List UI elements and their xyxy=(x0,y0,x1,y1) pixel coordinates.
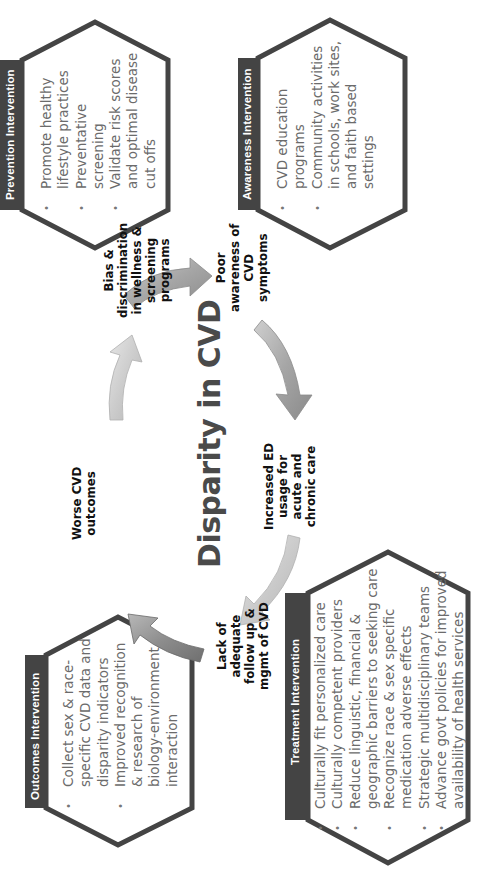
node-bias: Bias & discrimination in wellness & scre… xyxy=(102,223,172,318)
treatment-item-1: Culturally fit personalized care xyxy=(312,569,329,835)
prevention-item-1: Promote healthy xyxy=(38,53,55,215)
node-worse-outcomes: Worse CVD outcomes xyxy=(70,467,98,540)
node-increased-ed: Increased ED usage for acute and chronic… xyxy=(262,443,318,530)
cycle-arrow-5-icon xyxy=(109,335,142,420)
outcomes-bullets: Collect sex & race- specific CVD data an… xyxy=(60,638,181,813)
treatment-item-4: Recognize race & sex specific xyxy=(381,569,398,835)
prevention-item-3: Validate risk scores xyxy=(107,53,124,215)
treatment-item-6: Advance govt policies for improved xyxy=(433,569,450,835)
treatment-item-3: Reduce linguistic, financial & xyxy=(347,569,364,835)
outcomes-item-1: Collect sex & race- xyxy=(60,638,77,813)
prevention-label: Prevention Intervention xyxy=(4,69,16,200)
awareness-bullets: CVD education programs Community activit… xyxy=(274,41,378,215)
treatment-item-2: Culturally competent providers xyxy=(329,569,346,835)
treatment-item-5: Strategic multidisciplinary teams xyxy=(416,569,433,835)
awareness-item-2: Community activities xyxy=(309,41,326,215)
node-poor-awareness: Poor awareness of CVD symptoms xyxy=(214,224,270,312)
awareness-label: Awareness Intervention xyxy=(241,68,253,200)
outcomes-label: Outcomes Intervention xyxy=(29,673,41,800)
node-lack-followup: Lack of adequate follow up & mgmt of CVD xyxy=(215,602,271,690)
prevention-item-2: Preventative xyxy=(73,53,90,215)
cycle-arrow-2-icon xyxy=(254,320,312,420)
treatment-bullets: Culturally fit personalized care Cultura… xyxy=(312,569,468,835)
awareness-item-1: CVD education xyxy=(274,41,291,215)
outcomes-item-2: Improved recognition xyxy=(112,638,129,813)
prevention-bullets: Promote healthy lifestyle practices Prev… xyxy=(38,53,159,215)
treatment-label: Treatment Intervention xyxy=(289,639,301,765)
diagram-title: Disparity in CVD xyxy=(192,300,227,568)
